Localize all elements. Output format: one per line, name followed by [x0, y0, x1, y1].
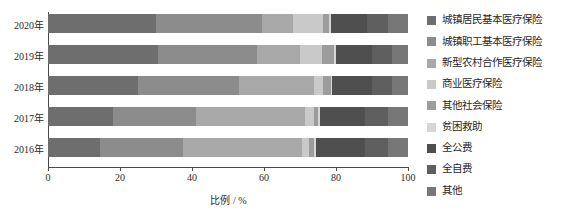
bar-segment[interactable] [331, 14, 367, 33]
bar-segment[interactable] [332, 76, 372, 95]
y-axis-label-2018: 2018年 [14, 79, 44, 94]
legend-swatch-icon [427, 16, 436, 25]
legend-swatch-icon [427, 187, 436, 196]
legend-swatch-icon [427, 123, 436, 132]
legend-item[interactable]: 贫困救助 [427, 116, 566, 137]
legend-item[interactable]: 商业医疗保险 [427, 74, 566, 95]
legend-swatch-icon [427, 80, 436, 89]
bar-segment[interactable] [138, 76, 239, 95]
bar-segment[interactable] [262, 14, 293, 33]
bar-segment[interactable] [314, 76, 323, 95]
legend-item-label: 贫困救助 [442, 122, 482, 133]
bar-segment[interactable] [48, 14, 156, 33]
bar-segment[interactable] [365, 138, 388, 157]
bar-segment[interactable] [388, 138, 408, 157]
bar-segment[interactable] [322, 45, 335, 64]
bar-row[interactable] [48, 107, 408, 126]
bar-segment[interactable] [183, 138, 302, 157]
chart-legend: 城镇居民基本医疗保险城镇职工基本医疗保险新型农村合作医疗保险商业医疗保险其他社会… [427, 10, 566, 202]
legend-item-label: 城镇居民基本医疗保险 [442, 15, 542, 26]
bar-segment[interactable] [100, 138, 183, 157]
bar-segment[interactable] [196, 107, 306, 126]
legend-item[interactable]: 其他社会保险 [427, 95, 566, 116]
x-tick-label-80: 80 [331, 172, 341, 183]
bar-row[interactable] [48, 45, 408, 64]
legend-swatch-icon [427, 144, 436, 153]
y-axis-label-2019: 2019年 [14, 48, 44, 63]
x-tick-label-100: 100 [401, 172, 416, 183]
legend-item-label: 全自费 [442, 164, 472, 175]
legend-item-label: 全公费 [442, 143, 472, 154]
bar-segment[interactable] [316, 138, 365, 157]
bar-segment[interactable] [372, 76, 392, 95]
bar-segment[interactable] [48, 138, 100, 157]
y-axis-label-2016: 2016年 [14, 141, 44, 156]
x-tick-label-60: 60 [259, 172, 269, 183]
bar-segment[interactable] [302, 138, 309, 157]
bar-segment[interactable] [392, 45, 408, 64]
x-tick-label-20: 20 [115, 172, 125, 183]
x-tick-100 [408, 167, 409, 171]
bar-row[interactable] [48, 76, 408, 95]
bar-segment[interactable] [300, 45, 322, 64]
x-axis-title: 比例 / % [48, 192, 409, 207]
y-axis-labels: 2020年 2019年 2018年 2017年 2016年 [0, 0, 44, 219]
bar-segment[interactable] [48, 107, 113, 126]
bar-segment[interactable] [113, 107, 196, 126]
bar-segment[interactable] [372, 45, 392, 64]
bar-segment[interactable] [323, 76, 330, 95]
x-axis-line [48, 167, 409, 168]
x-tick-label-40: 40 [187, 172, 197, 183]
legend-item[interactable]: 全自费 [427, 159, 566, 180]
bar-segment[interactable] [158, 45, 257, 64]
bar-segment[interactable] [156, 14, 262, 33]
bar-segment[interactable] [388, 14, 408, 33]
bar-segment[interactable] [388, 107, 408, 126]
legend-item-label: 新型农村合作医疗保险 [442, 58, 542, 69]
bar-segment[interactable] [48, 76, 138, 95]
legend-swatch-icon [427, 37, 436, 46]
bar-segment[interactable] [320, 107, 365, 126]
bar-segment[interactable] [257, 45, 300, 64]
bar-segment[interactable] [365, 107, 388, 126]
bar-segment[interactable] [392, 76, 408, 95]
bar-segment[interactable] [48, 45, 158, 64]
legend-item-label: 其他社会保险 [442, 101, 502, 112]
x-tick-80 [336, 167, 337, 171]
bar-row[interactable] [48, 14, 408, 33]
x-tick-60 [264, 167, 265, 171]
y-axis-label-2020: 2020年 [14, 17, 44, 32]
legend-item-label: 城镇职工基本医疗保险 [442, 37, 542, 48]
stacked-bar-chart: 2020年 2019年 2018年 2017年 2016年 0204060801… [0, 0, 566, 219]
legend-item[interactable]: 城镇职工基本医疗保险 [427, 31, 566, 52]
bar-row[interactable] [48, 138, 408, 157]
legend-item[interactable]: 新型农村合作医疗保险 [427, 53, 566, 74]
x-tick-40 [192, 167, 193, 171]
legend-item[interactable]: 其他 [427, 180, 566, 201]
bar-segment[interactable] [336, 45, 372, 64]
bar-segment[interactable] [239, 76, 315, 95]
x-tick-20 [120, 167, 121, 171]
bar-segment[interactable] [293, 14, 324, 33]
y-axis-label-2017: 2017年 [14, 110, 44, 125]
x-tick-label-0: 0 [46, 172, 51, 183]
x-tick-0 [48, 167, 49, 171]
bar-segment[interactable] [367, 14, 389, 33]
legend-item[interactable]: 城镇居民基本医疗保险 [427, 10, 566, 31]
legend-item-label: 其他 [442, 186, 462, 197]
bar-segment[interactable] [305, 107, 314, 126]
legend-swatch-icon [427, 165, 436, 174]
legend-item-label: 商业医疗保险 [442, 79, 502, 90]
legend-swatch-icon [427, 101, 436, 110]
legend-item[interactable]: 全公费 [427, 138, 566, 159]
legend-swatch-icon [427, 59, 436, 68]
